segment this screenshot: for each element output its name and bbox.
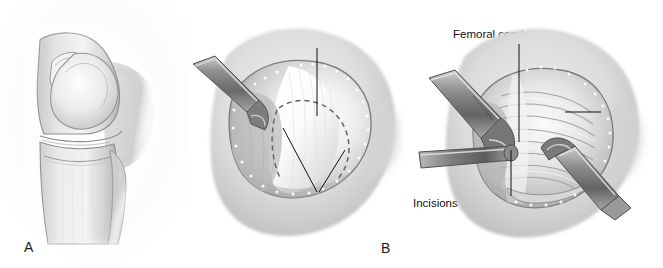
panel-b-illustration (185, 0, 420, 268)
figure-medial-knee-exposure: A (0, 0, 663, 268)
panel-b-capsule-incision: Femoral condyle Incisions into capsule B (185, 0, 420, 268)
panel-letter-a: A (24, 240, 34, 254)
panel-letter-b: B (381, 241, 391, 255)
panel-a-illustration (0, 0, 190, 268)
panel-a-knee-anatomy: A (0, 0, 190, 268)
panel-c-illustration (415, 0, 663, 268)
panel-c-joint-exposure: Medial femoral condyle Capsule Medial me… (415, 0, 663, 268)
